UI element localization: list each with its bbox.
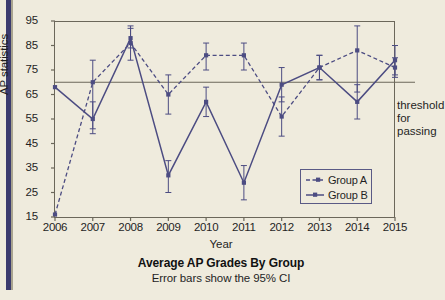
x-tick-label: 2010 (185, 222, 227, 234)
legend-swatch-solid (305, 189, 325, 201)
x-axis-label: Year (0, 238, 442, 250)
y-tick-label: 35 (8, 162, 38, 174)
data-point (166, 173, 170, 177)
data-point (204, 100, 208, 104)
data-point (280, 114, 284, 118)
series-line-group-b (55, 38, 395, 183)
x-tick-label: 2008 (110, 222, 152, 234)
legend-item-group-b[interactable]: Group B (305, 187, 368, 202)
chart-legend[interactable]: Group A Group B (300, 169, 372, 204)
y-tick-label: 25 (8, 187, 38, 199)
threshold-annotation: threshold for passing (397, 99, 445, 138)
chart-subtitle: Error bars show the 95% CI (0, 272, 442, 284)
threshold-line1: threshold (397, 99, 445, 112)
data-point (166, 92, 170, 96)
legend-swatch-dashed (305, 174, 325, 186)
x-tick-label: 2014 (336, 222, 378, 234)
x-tick-label: 2007 (72, 222, 114, 234)
y-tick-label: 55 (8, 113, 38, 125)
y-tick-label: 85 (8, 40, 38, 52)
x-tick-label: 2013 (298, 222, 340, 234)
data-point (128, 36, 132, 40)
data-point (91, 80, 95, 84)
x-tick-label: 2009 (147, 222, 189, 234)
threshold-line2: for passing (397, 112, 445, 138)
data-point (91, 117, 95, 121)
data-point (355, 48, 359, 52)
x-tick-label: 2006 (34, 222, 76, 234)
data-point (242, 53, 246, 57)
y-tick-label: 75 (8, 64, 38, 76)
y-tick-label: 15 (8, 211, 38, 223)
data-point (242, 181, 246, 185)
y-tick-label: 95 (8, 15, 38, 27)
data-point (204, 53, 208, 57)
y-tick-label: 45 (8, 138, 38, 150)
y-tick-label: 65 (8, 89, 38, 101)
x-tick-label: 2011 (223, 222, 265, 234)
x-tick-label: 2012 (261, 222, 303, 234)
data-point (355, 100, 359, 104)
data-point (317, 65, 321, 69)
legend-label-group-a: Group A (328, 174, 367, 186)
data-point (393, 58, 397, 62)
legend-label-group-b: Group B (328, 189, 368, 201)
legend-item-group-a[interactable]: Group A (305, 172, 367, 187)
data-point (53, 85, 57, 89)
data-point (53, 212, 57, 216)
x-tick-label: 2015 (374, 222, 416, 234)
data-point (280, 83, 284, 87)
chart-title: Average AP Grades By Group (0, 256, 442, 270)
